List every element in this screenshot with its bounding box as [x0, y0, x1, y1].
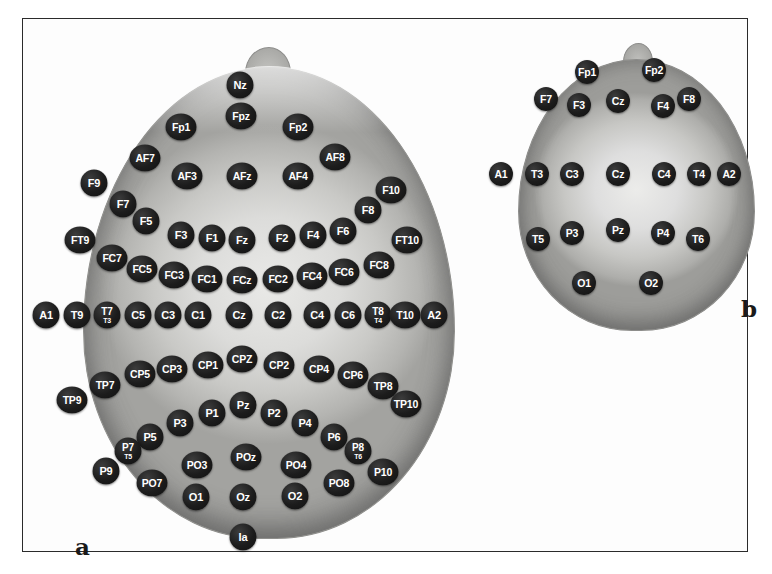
electrode-fc3: FC3 [159, 262, 190, 289]
electrode-c2: C2 [265, 302, 292, 329]
electrode-label: A2 [722, 169, 735, 180]
electrode-label: POz [236, 452, 256, 463]
electrode-t9: T9 [64, 302, 91, 329]
electrode-alt-label: T5 [124, 453, 132, 460]
electrode-label: TP10 [394, 399, 418, 410]
electrode-label: O2 [644, 278, 658, 289]
electrode-label: P4 [298, 418, 311, 429]
electrode-label: PO7 [142, 478, 162, 489]
electrode-f8: F8 [677, 87, 701, 111]
electrode-label: F7 [540, 94, 552, 105]
electrode-fc4: FC4 [297, 263, 328, 290]
electrode-c5: C5 [125, 302, 152, 329]
electrode-label: PO4 [286, 460, 306, 471]
electrode-af8: AF8 [320, 144, 351, 171]
electrode-o2: O2 [282, 483, 309, 510]
electrode-cz: Cz [606, 162, 630, 186]
electrode-label: F8 [683, 94, 695, 105]
electrode-p7: P7T5 [115, 438, 142, 465]
electrode-label: Fp1 [172, 122, 190, 133]
electrode-tp7: TP7 [90, 372, 121, 399]
electrode-label: FC4 [302, 271, 321, 282]
electrode-label: Fp2 [289, 122, 307, 133]
electrode-o2: O2 [639, 271, 663, 295]
electrode-f8: F8 [355, 197, 382, 224]
electrode-label: FC6 [334, 267, 353, 278]
electrode-o1: O1 [183, 484, 210, 511]
electrode-label: Pz [237, 400, 249, 411]
eeg-electrode-figure: NzFpzFp1Fp2AF7AF8AF3AFzAF4F9F10F7F8F5F6F… [0, 0, 772, 574]
electrode-label: T8 [372, 306, 383, 316]
electrode-alt-label: T4 [374, 317, 382, 324]
electrode-afz: AFz [227, 163, 258, 190]
electrode-pz: Pz [230, 392, 257, 419]
electrode-poz: POz [231, 444, 262, 471]
electrode-fc6: FC6 [329, 259, 360, 286]
electrode-c4: C4 [652, 162, 676, 186]
electrode-af7: AF7 [130, 145, 161, 172]
electrode-label: AF4 [288, 171, 307, 182]
electrode-label: F7 [117, 199, 129, 210]
electrode-t6: T6 [686, 227, 710, 251]
electrode-c1: C1 [185, 302, 212, 329]
electrode-p3: P3 [167, 410, 194, 437]
electrode-a2: A2 [421, 302, 448, 329]
electrode-label: O1 [189, 492, 203, 503]
electrode-label: A1 [494, 169, 507, 180]
figure-border: NzFpzFp1Fp2AF7AF8AF3AFzAF4F9F10F7F8F5F6F… [22, 18, 748, 552]
electrode-label: T5 [532, 234, 544, 245]
electrode-p2: P2 [261, 400, 288, 427]
electrode-fc7: FC7 [97, 245, 128, 272]
electrode-label: F2 [276, 233, 288, 244]
electrode-cp1: CP1 [193, 352, 224, 379]
electrode-c3: C3 [560, 162, 584, 186]
electrode-alt-label: T3 [103, 317, 111, 324]
electrode-p9: P9 [93, 458, 120, 485]
electrode-a1: A1 [489, 162, 513, 186]
electrode-f3: F3 [567, 93, 591, 117]
electrode-label: Cz [612, 96, 624, 107]
electrode-label: Oz [236, 492, 250, 503]
electrode-label: FC7 [102, 253, 121, 264]
electrode-label: CPZ [232, 354, 252, 365]
electrode-a2: A2 [717, 162, 741, 186]
electrode-cz: Cz [606, 89, 630, 113]
electrode-p4: P4 [292, 410, 319, 437]
electrode-label: F5 [140, 216, 152, 227]
electrode-label: AF8 [325, 152, 344, 163]
electrode-label: P9 [99, 466, 112, 477]
electrode-label: C3 [565, 169, 578, 180]
electrode-cp5: CP5 [125, 361, 156, 388]
electrode-oz: Oz [230, 484, 257, 511]
electrode-t4: T4 [687, 162, 711, 186]
electrode-label: C1 [191, 310, 205, 321]
electrode-label: FC8 [369, 260, 388, 271]
electrode-po3: PO3 [182, 452, 213, 479]
electrode-label: T7 [101, 306, 112, 316]
electrode-c6: C6 [335, 302, 362, 329]
electrode-p6: P6 [321, 424, 348, 451]
electrode-label: FT10 [395, 235, 419, 246]
electrode-label: P6 [327, 432, 340, 443]
electrode-label: P1 [205, 408, 218, 419]
electrode-label: O2 [288, 491, 302, 502]
electrode-label: Pz [612, 225, 624, 236]
electrode-f5: F5 [133, 208, 160, 235]
electrode-po8: PO8 [324, 470, 355, 497]
electrode-label: C4 [310, 310, 324, 321]
electrode-label: CP3 [162, 364, 182, 375]
electrode-label: PO8 [329, 478, 349, 489]
electrode-fc8: FC8 [364, 252, 395, 279]
electrode-cpz: CPZ [227, 346, 258, 373]
electrode-po4: PO4 [281, 452, 312, 479]
electrode-f9: F9 [81, 170, 108, 197]
electrode-f4: F4 [651, 94, 675, 118]
electrode-label: F10 [382, 185, 400, 196]
electrode-label: A2 [427, 310, 441, 321]
electrode-label: F3 [175, 230, 187, 241]
electrode-ia: Ia [230, 524, 257, 551]
electrode-label: P5 [143, 432, 156, 443]
electrode-label: T6 [692, 234, 704, 245]
panel-label-b: b [741, 295, 757, 322]
electrode-label: Fz [236, 235, 248, 246]
